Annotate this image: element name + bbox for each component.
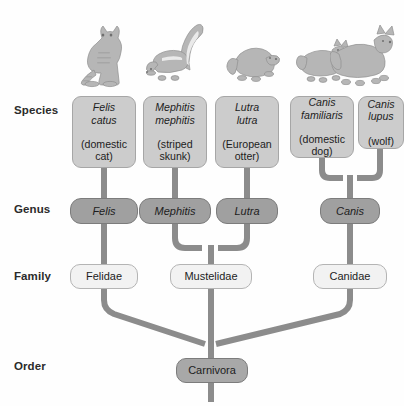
rank-label-family: Family [14, 270, 51, 282]
species-common-name: (striped skunk) [155, 138, 194, 163]
otter-illustration [226, 30, 282, 88]
cat-illustration [72, 18, 128, 88]
species-common-name: (European otter) [222, 138, 271, 163]
species-scientific-name: Mephitis mephitis [155, 101, 194, 126]
rank-label-genus: Genus [14, 203, 50, 215]
genus-box-mephitis[interactable]: Mephitis [139, 198, 211, 224]
family-box-canidae[interactable]: Canidae [313, 264, 387, 289]
species-box-felis-catus[interactable]: Felis catus (domestic cat) [72, 96, 136, 168]
connector-felidae-to-carnivora [104, 289, 205, 344]
species-scientific-name: Canis familiaris [299, 96, 345, 121]
species-common-name: (domestic cat) [81, 138, 127, 163]
species-common-name: (wolf) [367, 135, 394, 147]
wolf-illustration [330, 20, 396, 88]
family-box-mustelidae[interactable]: Mustelidae [170, 264, 252, 289]
genus-box-lutra[interactable]: Lutra [216, 198, 278, 224]
skunk-illustration [142, 14, 204, 90]
species-common-name: (domestic dog) [299, 133, 345, 158]
species-scientific-name: Lutra lutra [222, 101, 271, 126]
connector-canidae-to-carnivora [216, 289, 350, 344]
family-box-felidae[interactable]: Felidae [70, 264, 138, 289]
species-scientific-name: Felis catus [81, 101, 127, 126]
species-box-mephitis-mephitis[interactable]: Mephitis mephitis (striped skunk) [143, 96, 207, 168]
connector-lutra-to-mustelidae [218, 224, 247, 248]
species-box-canis-familiaris[interactable]: Canis familiaris (domestic dog) [290, 96, 354, 158]
rank-label-species: Species [14, 104, 58, 116]
order-box-carnivora[interactable]: Carnivora [176, 358, 248, 383]
connector-mephitis-to-mustelidae [175, 224, 202, 248]
genus-box-canis[interactable]: Canis [320, 198, 380, 224]
genus-box-felis[interactable]: Felis [70, 198, 138, 224]
taxonomy-diagram: Species Genus Family Order Felis catus (… [0, 0, 404, 406]
rank-label-order: Order [14, 360, 46, 372]
species-box-lutra-lutra[interactable]: Lutra lutra (European otter) [215, 96, 279, 168]
species-scientific-name: Canis lupus [367, 98, 394, 123]
species-box-canis-lupus[interactable]: Canis lupus (wolf) [358, 96, 404, 149]
